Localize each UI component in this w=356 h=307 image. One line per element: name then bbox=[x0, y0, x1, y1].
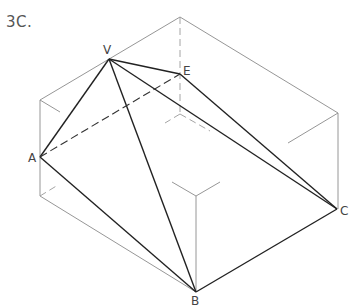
edge-VA bbox=[40, 59, 109, 157]
box-tick-right-top bbox=[288, 113, 338, 143]
label-V: V bbox=[103, 43, 112, 57]
label-A: A bbox=[28, 151, 37, 165]
edge-AE-hidden bbox=[40, 74, 180, 157]
edge-VB bbox=[109, 59, 196, 292]
box-tick-front-left bbox=[172, 182, 196, 196]
edge-EC bbox=[180, 74, 337, 209]
box-tick-front-right bbox=[196, 182, 220, 196]
box-edge-top-right bbox=[180, 17, 338, 113]
edge-AB bbox=[40, 157, 196, 292]
label-C: C bbox=[340, 204, 348, 218]
edge-BC bbox=[196, 209, 337, 292]
pyramid-in-box-diagram: V E A B C bbox=[0, 0, 356, 307]
hidden-edge-bottom-left-stub bbox=[40, 185, 58, 196]
label-E: E bbox=[183, 64, 191, 78]
label-B: B bbox=[191, 294, 199, 307]
vertex-labels: V E A B C bbox=[28, 43, 348, 307]
bounding-box bbox=[40, 17, 338, 292]
box-edge-bottom-left bbox=[40, 196, 196, 292]
pyramid-edges bbox=[40, 59, 337, 292]
box-tick-left-top bbox=[40, 100, 60, 112]
hidden-edge-back-left bbox=[165, 114, 180, 123]
